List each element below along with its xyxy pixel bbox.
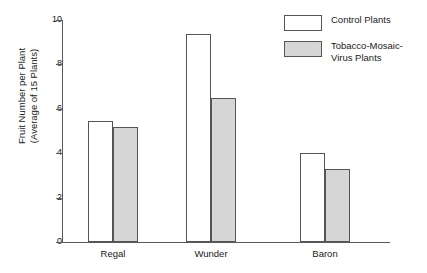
y-tick-mark — [56, 64, 62, 65]
bar-wunder-treated — [211, 98, 236, 242]
legend-label-control: Control Plants — [331, 14, 391, 26]
y-tick-mark — [56, 242, 62, 243]
x-axis-label-baron: Baron — [295, 248, 355, 259]
y-axis-line — [62, 20, 63, 243]
y-tick-mark — [56, 198, 62, 199]
x-axis-line — [62, 242, 390, 243]
bar-baron-control — [300, 153, 325, 242]
y-tick-mark — [56, 20, 62, 21]
y-tick-0: 0 — [0, 242, 62, 243]
white-swatch-icon — [284, 15, 322, 31]
y-axis-title: Fruit Number per Plant (Average of 15 Pl… — [16, 0, 40, 196]
y-tick-mark — [56, 153, 62, 154]
y-tick-2: 2 — [0, 198, 62, 199]
x-axis-label-regal: Regal — [83, 248, 143, 259]
bar-wunder-control — [186, 34, 211, 242]
bar-chart: 10 8 6 4 2 0 Fruit Number per Plant (Ave… — [0, 0, 427, 273]
x-axis-label-wunder: Wunder — [181, 248, 241, 259]
bar-baron-treated — [325, 169, 350, 242]
gray-swatch-icon — [284, 41, 322, 57]
legend-item-control: Control Plants — [284, 14, 424, 31]
y-axis-title-line1: Fruit Number per Plant — [16, 0, 28, 196]
bar-regal-treated — [113, 127, 138, 242]
bar-regal-control — [88, 121, 113, 242]
legend-label-treated: Tobacco-Mosaic-Virus Plants — [331, 40, 423, 64]
legend: Control Plants Tobacco-Mosaic-Virus Plan… — [284, 14, 424, 73]
y-tick-mark — [56, 109, 62, 110]
legend-item-treated: Tobacco-Mosaic-Virus Plants — [284, 40, 424, 64]
y-axis-title-line2: (Average of 15 Plants) — [28, 0, 40, 196]
